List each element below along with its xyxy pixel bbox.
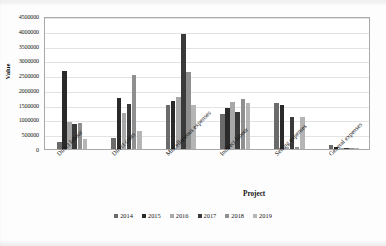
bar [220, 114, 225, 149]
legend-swatch-icon [253, 214, 257, 218]
legend-swatch-icon [198, 214, 202, 218]
y-axis-tick-label: 2500000 [19, 73, 39, 79]
legend-swatch-icon [142, 214, 146, 218]
x-axis-title: Project [243, 190, 265, 198]
legend-label: 2016 [176, 213, 189, 219]
bar-group [99, 18, 153, 149]
bar [83, 139, 88, 149]
legend-item[interactable]: 2017 [198, 213, 217, 219]
y-axis-tick-label: 3000000 [19, 58, 39, 64]
bar-group [154, 18, 208, 149]
legend-swatch-icon [114, 214, 118, 218]
bar-chart-figure: Value 0500000100000015000002000000250000… [0, 0, 386, 246]
y-axis-tick-label: 0 [36, 147, 39, 153]
legend-label: 2014 [120, 213, 133, 219]
y-axis-tick-labels: 0500000100000015000002000000250000030000… [0, 17, 42, 150]
x-axis-tick-labels: Direct labourDirect costsMiscellaneous e… [44, 150, 370, 202]
bar [166, 105, 171, 149]
legend-item[interactable]: 2018 [225, 213, 244, 219]
legend-item[interactable]: 2014 [114, 213, 133, 219]
legend-label: 2017 [204, 213, 217, 219]
bar [62, 71, 67, 149]
bar [274, 103, 279, 149]
bar-group [262, 18, 316, 149]
y-axis-tick-label: 4500000 [19, 14, 39, 20]
y-axis-tick-label: 1000000 [19, 117, 39, 123]
legend-item[interactable]: 2015 [142, 213, 161, 219]
legend-label: 2019 [259, 213, 272, 219]
bar [246, 103, 251, 149]
bar [241, 99, 246, 149]
y-axis-tick-label: 2000000 [19, 88, 39, 94]
bar-group [208, 18, 262, 149]
y-axis-tick-label: 3500000 [19, 44, 39, 50]
legend-label: 2018 [231, 213, 244, 219]
bar-group [317, 18, 370, 149]
legend-swatch-icon [170, 214, 174, 218]
legend-swatch-icon [225, 214, 229, 218]
bar [137, 131, 142, 149]
y-axis-tick-label: 1500000 [19, 103, 39, 109]
bar [349, 148, 354, 149]
bar-group [45, 18, 99, 149]
legend-item[interactable]: 2019 [253, 213, 272, 219]
bar [295, 147, 300, 149]
bar [344, 148, 349, 149]
y-axis-tick-label: 4000000 [19, 29, 39, 35]
legend-label: 2015 [148, 213, 161, 219]
chart-legend: 201420152016201720182019 [0, 213, 386, 219]
bar [354, 148, 359, 149]
plot-area [44, 17, 370, 150]
legend-item[interactable]: 2016 [170, 213, 189, 219]
y-axis-tick-label: 500000 [22, 132, 39, 138]
